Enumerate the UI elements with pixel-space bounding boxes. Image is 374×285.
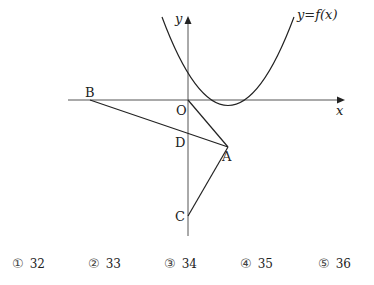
- point-label-C: C: [175, 210, 185, 223]
- choice-marker: ①: [12, 256, 24, 271]
- y-axis-label: y: [175, 12, 182, 25]
- choice-value: 32: [30, 257, 45, 271]
- x-axis-label: x: [336, 104, 343, 117]
- point-label-O: O: [176, 104, 187, 117]
- parabola-curve: [162, 17, 294, 106]
- choice-3[interactable]: ③34: [164, 256, 197, 271]
- point-label-A: A: [222, 150, 231, 163]
- choice-4[interactable]: ④35: [240, 256, 273, 271]
- choice-2[interactable]: ②33: [88, 256, 121, 271]
- choice-marker: ②: [88, 256, 100, 271]
- choice-value: 35: [258, 257, 273, 271]
- curve-label-text: y=f(x): [297, 7, 338, 22]
- graph-svg: [0, 0, 374, 245]
- choice-marker: ③: [164, 256, 176, 271]
- choice-value: 33: [106, 257, 121, 271]
- point-label-B: B: [85, 86, 95, 99]
- y-axis-arrow-icon: [185, 16, 192, 24]
- answer-choices: ①32 ②33 ③34 ④35 ⑤36: [0, 256, 374, 276]
- point-label-D: D: [175, 136, 185, 149]
- choice-value: 34: [182, 257, 197, 271]
- curve-label: y=f(x): [297, 8, 338, 21]
- choice-5[interactable]: ⑤36: [318, 256, 351, 271]
- choice-marker: ⑤: [318, 256, 330, 271]
- choice-marker: ④: [240, 256, 252, 271]
- choice-1[interactable]: ①32: [12, 256, 45, 271]
- choice-value: 36: [336, 257, 351, 271]
- graph-figure: y x y=f(x) O B D A C: [0, 0, 374, 245]
